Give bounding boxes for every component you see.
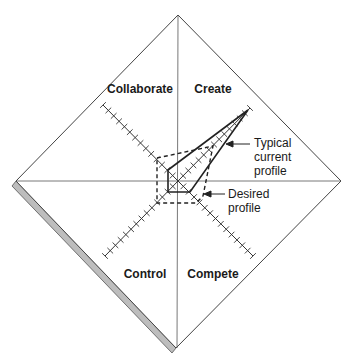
- desired-profile-label-line: Desired: [228, 187, 269, 201]
- diamond-diagram: [0, 0, 350, 363]
- current-profile-label-line: profile: [254, 164, 291, 178]
- desired-profile-label: Desired profile: [228, 187, 269, 215]
- current-profile-label-line: current: [254, 150, 291, 164]
- current-profile-label-line: Typical: [254, 136, 291, 150]
- desired-profile-label-line: profile: [228, 201, 269, 215]
- quadrant-label-create: Create: [194, 82, 231, 96]
- current-profile-label: Typical current profile: [254, 136, 291, 178]
- quadrant-label-compete: Compete: [187, 267, 238, 281]
- quadrant-label-control: Control: [124, 267, 167, 281]
- quadrant-label-collaborate: Collaborate: [107, 82, 173, 96]
